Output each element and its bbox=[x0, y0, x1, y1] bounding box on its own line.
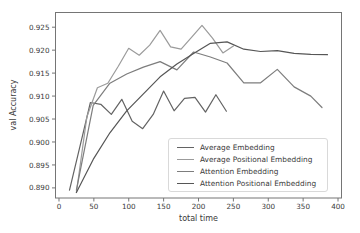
x-tick-label: 200 bbox=[192, 202, 206, 211]
x-axis-label: total time bbox=[55, 214, 342, 223]
legend-item-attention-positional-embedding: Attention Positional Embedding bbox=[177, 179, 327, 188]
y-tick-label: 0.920 bbox=[29, 46, 50, 55]
x-tick-label: 50 bbox=[89, 202, 99, 211]
legend-label: Attention Positional Embedding bbox=[200, 179, 316, 188]
y-tick-label: 0.890 bbox=[29, 183, 50, 192]
y-tick-label: 0.915 bbox=[29, 69, 50, 78]
x-tick-label: 100 bbox=[122, 202, 136, 211]
x-tick-label: 400 bbox=[331, 202, 345, 211]
legend-item-attention-embedding: Attention Embedding bbox=[177, 167, 327, 176]
y-tick-label: 0.905 bbox=[29, 115, 50, 124]
legend-label: Average Embedding bbox=[200, 143, 275, 152]
legend-item-average-positional-embedding: Average Positional Embedding bbox=[177, 155, 327, 164]
x-tick-label: 300 bbox=[261, 202, 275, 211]
x-tick-label: 0 bbox=[57, 202, 62, 211]
y-tick-label: 0.900 bbox=[29, 138, 50, 147]
x-tick-label: 150 bbox=[157, 202, 171, 211]
line-chart: 0501001502002503003504000.8900.8950.9000… bbox=[0, 0, 360, 233]
x-tick-label: 350 bbox=[296, 202, 310, 211]
y-axis-label: val Accuracy bbox=[9, 80, 18, 131]
y-tick-label: 0.910 bbox=[29, 92, 50, 101]
legend-line-swatch bbox=[177, 171, 194, 172]
legend-label: Average Positional Embedding bbox=[200, 155, 312, 164]
legend: Average EmbeddingAverage Positional Embe… bbox=[168, 138, 328, 192]
legend-line-swatch bbox=[177, 183, 194, 184]
legend-line-swatch bbox=[177, 159, 194, 160]
y-tick-label: 0.895 bbox=[29, 161, 50, 170]
legend-item-average-embedding: Average Embedding bbox=[177, 143, 327, 152]
legend-line-swatch bbox=[177, 147, 194, 148]
x-tick-label: 250 bbox=[227, 202, 241, 211]
y-tick-label: 0.925 bbox=[29, 23, 50, 32]
legend-label: Attention Embedding bbox=[200, 167, 278, 176]
